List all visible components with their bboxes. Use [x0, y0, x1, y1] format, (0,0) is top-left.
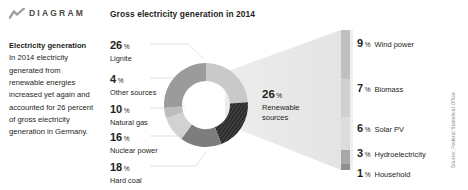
infographic-root: DIAGRAM Electricity generation In 2014 e…	[0, 0, 468, 190]
solar-pv-value: 6	[357, 123, 363, 134]
callout-unit: %	[276, 92, 282, 99]
household-unit: %	[365, 171, 371, 178]
hydroelectricity-label: Hydroelectricity	[375, 151, 426, 160]
label-lignite: 26% Lignite	[110, 35, 184, 63]
renewable-callout: 26% Renewable sources	[262, 84, 322, 123]
breakdown-item-biomass: 7% Biomass	[357, 83, 403, 95]
biomass-label: Biomass	[375, 86, 404, 95]
breakdown-item-wind-power: 9% Wind power	[357, 38, 414, 50]
household-label: Household	[375, 171, 411, 180]
slice-hard-coal	[215, 102, 248, 144]
breakdown-item-solar-pv: 6% Solar PV	[357, 123, 404, 135]
label-nuclear-power: 16% Nuclear power	[110, 127, 184, 155]
lignite-label: Lignite	[110, 55, 184, 64]
nuclear-power-value: 16	[110, 131, 122, 143]
source-credit: Source: Federal Statistical Office	[451, 92, 456, 168]
solar-pv-unit: %	[365, 126, 371, 133]
hard-coal-value: 18	[110, 161, 122, 173]
callout-value: 26	[262, 88, 275, 100]
biomass-value: 7	[357, 83, 363, 94]
breakdown-item-household: 1% Household	[357, 168, 410, 180]
hydroelectricity-unit: %	[365, 151, 371, 158]
solar-pv-label: Solar PV	[375, 126, 405, 135]
natural-gas-value: 10	[110, 103, 122, 115]
nuclear-power-unit: %	[124, 135, 130, 142]
breakdown-item-hydroelectricity: 3% Hydroelectricity	[357, 148, 426, 160]
other-sources-value: 4	[110, 73, 116, 85]
hydroelectricity-value: 3	[357, 148, 363, 159]
callout-label: Renewable sources	[262, 103, 322, 123]
label-other-sources: 4% Other sources	[110, 69, 184, 97]
other-sources-unit: %	[118, 77, 124, 84]
natural-gas-label: Natural gas	[110, 119, 184, 128]
chart-graphics	[0, 0, 468, 190]
renewable-stacked-bar	[341, 30, 353, 170]
lignite-unit: %	[124, 43, 130, 50]
biomass-unit: %	[365, 86, 371, 93]
label-natural-gas: 10% Natural gas	[110, 99, 184, 127]
hard-coal-label: Hard coal	[110, 177, 184, 186]
label-hard-coal: 18% Hard coal	[110, 157, 184, 185]
lignite-value: 26	[110, 39, 122, 51]
wind-power-value: 9	[357, 38, 363, 49]
natural-gas-unit: %	[124, 107, 130, 114]
hard-coal-unit: %	[124, 165, 130, 172]
household-value: 1	[357, 168, 363, 179]
other-sources-label: Other sources	[110, 89, 184, 98]
wind-power-unit: %	[365, 41, 371, 48]
nuclear-power-label: Nuclear power	[110, 147, 184, 156]
wind-power-label: Wind power	[375, 41, 415, 50]
